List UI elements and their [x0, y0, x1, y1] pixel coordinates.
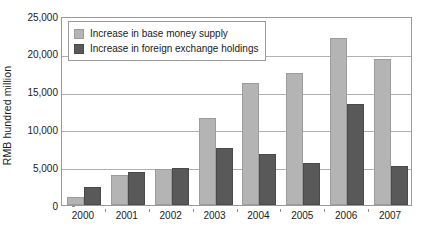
y-axis-title: RMB hundred million [0, 0, 14, 231]
bar [199, 118, 216, 205]
x-tick-label: 2002 [146, 209, 196, 223]
x-tick-mark [193, 209, 194, 212]
y-tick-label: 15,000 [14, 87, 58, 98]
legend-label: Increase in base money supply [90, 28, 228, 40]
bar [216, 148, 233, 205]
legend-swatch-icon [74, 29, 84, 39]
bar [155, 169, 172, 205]
bar-group [330, 18, 364, 205]
y-tick-label: 20,000 [14, 49, 58, 60]
x-tick-label: 2000 [58, 209, 108, 223]
x-tick-mark [237, 209, 238, 212]
bar [84, 187, 101, 205]
chart-legend: Increase in base money supplyIncrease in… [68, 21, 266, 61]
bar [286, 73, 303, 205]
x-axis-tick-labels: 20002001200220032004200520062007 [61, 209, 412, 225]
bar [330, 38, 347, 205]
legend-item: Increase in base money supply [74, 26, 258, 41]
legend-label: Increase in foreign exchange holdings [90, 43, 258, 55]
y-tick-label: 0 [14, 201, 58, 212]
x-tick-mark [149, 209, 150, 212]
bar-group [374, 18, 408, 205]
x-tick-label: 2003 [190, 209, 240, 223]
x-tick-label: 2001 [102, 209, 152, 223]
bar [303, 163, 320, 205]
bar [111, 175, 128, 205]
x-tick-mark [280, 209, 281, 212]
x-tick-mark [324, 209, 325, 212]
y-tick-label: 10,000 [14, 125, 58, 136]
legend-item: Increase in foreign exchange holdings [74, 41, 258, 56]
x-tick-label: 2006 [321, 209, 371, 223]
bar [259, 154, 276, 205]
bar [172, 168, 189, 205]
bar [374, 59, 391, 205]
x-tick-label: 2004 [233, 209, 283, 223]
y-axis-tick-labels: 05,00010,00015,00020,00025,000 [14, 11, 58, 211]
bar [128, 172, 145, 205]
bar [67, 197, 84, 205]
legend-swatch-icon [74, 44, 84, 54]
bar [391, 166, 408, 205]
bar [242, 83, 259, 205]
y-tick-label: 25,000 [14, 12, 58, 23]
bar-group [286, 18, 320, 205]
x-tick-label: 2007 [365, 209, 415, 223]
x-tick-label: 2005 [277, 209, 327, 223]
x-tick-mark [368, 209, 369, 212]
x-tick-mark [105, 209, 106, 212]
bar [347, 104, 364, 205]
bar-chart: RMB hundred million 05,00010,00015,00020… [0, 0, 426, 231]
y-tick-label: 5,000 [14, 163, 58, 174]
y-tick-mark [72, 206, 75, 207]
